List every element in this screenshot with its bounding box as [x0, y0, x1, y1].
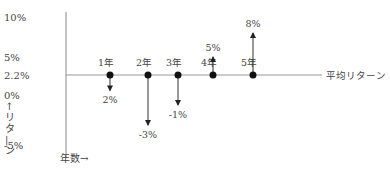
chart: 平均リターン10%5%2.2%0%-5%年数→↑リタ|ン 1年2%2年-3%3年…: [0, 0, 390, 176]
category-label: 2年: [136, 57, 152, 68]
y-tick-label: 2.2%: [4, 70, 29, 81]
data-point: [250, 72, 257, 79]
arrow-head: [175, 100, 181, 106]
y-tick-label: 0%: [4, 90, 20, 101]
y-axis-title: ↑リタ|ン: [5, 101, 15, 156]
data-label: 5%: [205, 42, 220, 53]
category-label: 5年: [241, 57, 257, 68]
data-point: [145, 72, 152, 79]
data-label: 8%: [245, 18, 260, 29]
y-tick-label: 5%: [4, 52, 20, 63]
arrow-head: [250, 32, 256, 38]
baseline-label: 平均リターン: [326, 70, 386, 81]
data-point: [210, 72, 217, 79]
category-label: 1年: [98, 57, 114, 68]
data-label: 2%: [102, 94, 117, 105]
data-point: [107, 72, 114, 79]
data-label: -1%: [169, 109, 187, 120]
category-label: 3年: [166, 57, 182, 68]
y-tick-label: 10%: [4, 12, 26, 23]
arrow-head: [145, 120, 151, 126]
data-label: -3%: [139, 129, 157, 140]
data-point: [175, 72, 182, 79]
category-label: 4年: [201, 57, 217, 68]
arrow-head: [107, 85, 113, 91]
x-axis-title: 年数→: [60, 152, 89, 164]
